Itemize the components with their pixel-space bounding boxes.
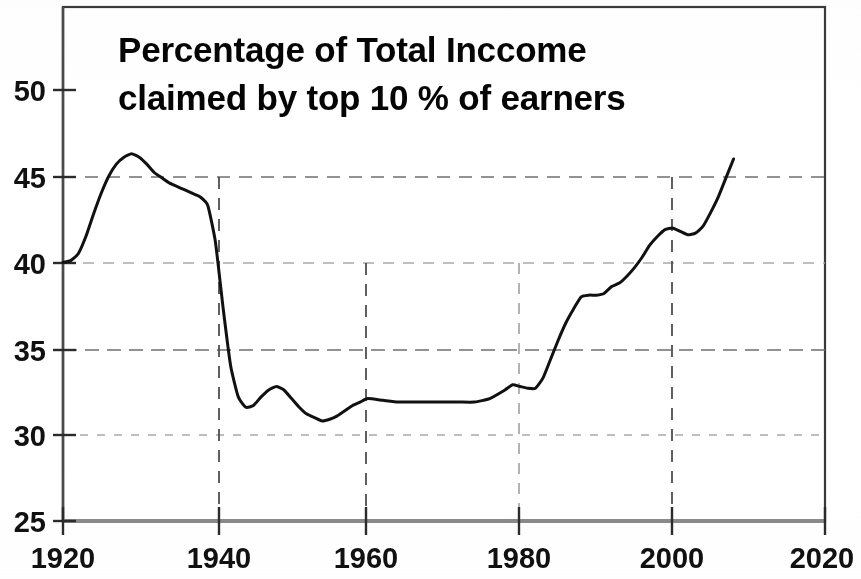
y-tick-label-25: 25: [14, 506, 46, 538]
y-tick-label-35: 35: [14, 335, 46, 367]
chart-title: Percentage of Total Inccome claimed by t…: [118, 30, 626, 117]
y-tick-label-45: 45: [14, 162, 46, 194]
x-axis-tick-labels: 1920 1940 1960 1980 2000 2020: [31, 542, 855, 574]
chart-canvas: 50 45 40 35 30 25 1920 1940 1960 1980 20…: [0, 0, 861, 579]
x-tick-label-1920: 1920: [31, 542, 96, 574]
y-axis-tick-labels: 50 45 40 35 30 25: [14, 75, 46, 538]
horizontal-gridlines: [63, 90, 825, 435]
y-tick-label-30: 30: [14, 420, 46, 452]
x-tick-label-2000: 2000: [640, 542, 705, 574]
vertical-gridlines: [219, 177, 672, 521]
x-tick-label-2020: 2020: [790, 542, 855, 574]
x-tick-label-1960: 1960: [334, 542, 399, 574]
y-tick-label-50: 50: [14, 75, 46, 107]
x-tick-label-1940: 1940: [187, 542, 252, 574]
chart-figure: 50 45 40 35 30 25 1920 1940 1960 1980 20…: [0, 0, 861, 579]
y-tick-label-40: 40: [14, 248, 46, 280]
x-tick-label-1980: 1980: [487, 542, 552, 574]
chart-title-line-2: claimed by top 10 % of earners: [118, 78, 626, 117]
chart-title-line-1: Percentage of Total Inccome: [118, 30, 587, 69]
series-line-top-10-percent-income-share: [63, 154, 734, 421]
y-tick-marks: [53, 90, 76, 521]
